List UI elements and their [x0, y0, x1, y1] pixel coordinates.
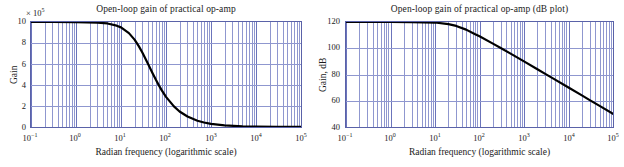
x-tick-label: 103: [511, 131, 537, 143]
x-tick-label: 101: [422, 131, 448, 143]
chart-title: Open-loop gain of practical op-amp: [30, 3, 302, 15]
gain-curve: [31, 22, 302, 128]
y-tick-label: 80: [314, 70, 340, 79]
y-tick-label: 10: [8, 17, 26, 26]
x-tick-label: 105: [600, 131, 624, 143]
plot-area: [30, 21, 302, 128]
y-tick-label: 60: [314, 96, 340, 105]
x-axis-label: Radian frequency (logarithmic scale): [345, 146, 614, 158]
chart-panel-db-gain: Open-loop gain of practical op-amp (dB p…: [310, 0, 619, 167]
y-tick-label: 4: [8, 81, 26, 90]
x-axis-label: Radian frequency (logarithmic scale): [30, 146, 302, 158]
x-tick-label: 104: [243, 131, 269, 143]
y-tick-label: 100: [314, 43, 340, 52]
chart-title: Open-loop gain of practical op-amp (dB p…: [345, 3, 614, 15]
x-tick-label: 10−1: [332, 131, 358, 143]
y-axis-multiplier: × 105: [26, 5, 44, 18]
plot-area: [345, 21, 614, 128]
x-tick-label: 103: [198, 131, 224, 143]
y-tick-label: 120: [314, 17, 340, 26]
x-tick-label: 101: [107, 131, 133, 143]
gain-curve: [346, 22, 614, 128]
x-tick-label: 100: [62, 131, 88, 143]
x-tick-label: 102: [152, 131, 178, 143]
chart-panel-linear-gain: Open-loop gain of practical op-amp × 105…: [0, 0, 310, 167]
x-tick-label: 100: [377, 131, 403, 143]
y-axis-multiplier-prefix: × 10: [26, 8, 41, 18]
x-tick-label: 104: [556, 131, 582, 143]
x-tick-label: 10−1: [17, 131, 43, 143]
y-tick-label: 2: [8, 102, 26, 111]
y-tick-label: 6: [8, 60, 26, 69]
y-axis-multiplier-exponent: 5: [41, 7, 44, 13]
y-tick-label: 8: [8, 38, 26, 47]
x-tick-label: 102: [466, 131, 492, 143]
